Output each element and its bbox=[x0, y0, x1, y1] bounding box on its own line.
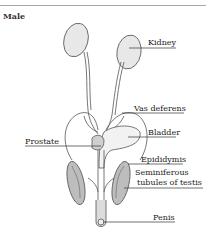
right-kidney bbox=[114, 33, 144, 71]
label-seminiferous-line1: Seminiferous bbox=[135, 168, 189, 177]
label-epididymis: Epididymis bbox=[141, 155, 186, 164]
label-kidney: Kidney bbox=[148, 38, 176, 47]
bladder bbox=[99, 126, 140, 168]
male-reproductive-illustration bbox=[0, 0, 206, 230]
prostate bbox=[92, 135, 104, 150]
label-penis: Penis bbox=[153, 213, 175, 222]
left-testis bbox=[64, 160, 89, 206]
label-seminiferous-line2: tubules of testis bbox=[137, 178, 202, 187]
right-testis bbox=[109, 160, 134, 206]
label-bladder: Bladder bbox=[148, 128, 180, 137]
label-prostate: Prostate bbox=[25, 137, 59, 146]
label-vas-deferens: Vas deferens bbox=[134, 104, 186, 113]
